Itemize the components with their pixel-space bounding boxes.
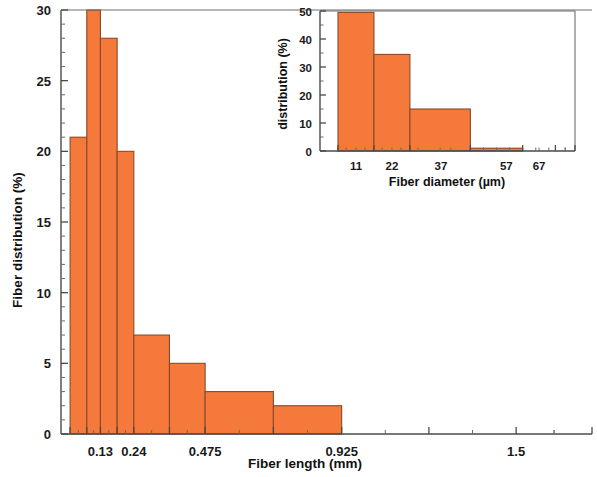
main-chart-yaxis-title: Fiber distribution (%) (10, 172, 25, 308)
figure-histogram-panel: 0.130.240.4750.9251.5 051015202530 Fiber… (0, 0, 597, 477)
bar-16.5-27.5 (374, 54, 410, 151)
inset-xtick-label: 22 (386, 160, 399, 172)
main-ytick-label: 30 (37, 3, 51, 18)
main-xtick-label: 1.5 (507, 444, 525, 459)
bar-27.5-46 (410, 109, 470, 151)
main-ytick-label: 15 (37, 215, 51, 230)
inset-chart-yaxis-title: distribution (%) (276, 38, 290, 130)
bar-0.085-0.13 (87, 10, 101, 434)
inset-ytick-label: 40 (299, 34, 312, 46)
inset-ytick-label: 20 (299, 90, 312, 102)
inset-xtick-label: 57 (500, 160, 513, 172)
main-ytick-label: 10 (37, 286, 51, 301)
main-xtick-label: 0.475 (189, 444, 222, 459)
inset-ytick-label: 10 (299, 118, 312, 130)
inset-ytick-label: 0 (306, 146, 312, 158)
bar-0.03-0.085 (70, 137, 87, 434)
bar-0.13-0.185 (100, 38, 117, 434)
main-chart-ytick-labels: 051015202530 (37, 3, 51, 442)
inset-chart-xtick-labels: 1122375767 (350, 160, 546, 172)
bar-0.24-0.3575 (134, 335, 170, 434)
main-ytick-label: 20 (37, 144, 51, 159)
bar-0.3575-0.475 (169, 363, 205, 434)
inset-xtick-label: 11 (350, 160, 363, 172)
main-ytick-label: 5 (44, 356, 51, 371)
bar-0.185-0.24 (117, 151, 134, 434)
main-chart-bars (70, 10, 342, 434)
main-xtick-label: 0.13 (88, 444, 113, 459)
bar-0.7-0.925 (273, 406, 341, 434)
bar-0.475-0.7 (205, 392, 273, 434)
bar-5.5-16.5 (338, 12, 374, 151)
main-xtick-label: 0.24 (121, 444, 147, 459)
main-ytick-label: 0 (44, 427, 51, 442)
inset-chart-ytick-labels: 01020304050 (299, 6, 312, 158)
inset-chart-xaxis-title: Fiber diameter (µm) (389, 175, 505, 189)
main-ytick-label: 25 (37, 74, 51, 89)
inset-xtick-label: 37 (435, 160, 448, 172)
main-chart-xaxis-title: Fiber length (mm) (248, 456, 362, 471)
chart-svg-canvas: 0.130.240.4750.9251.5 051015202530 Fiber… (0, 0, 597, 477)
inset-xtick-label: 67 (533, 160, 546, 172)
inset-ytick-label: 30 (299, 62, 312, 74)
inset-chart-bars (338, 12, 523, 151)
inset-ytick-label: 50 (299, 6, 312, 18)
inset-chart: 1122375767 01020304050 Fiber diameter (µ… (276, 6, 575, 190)
